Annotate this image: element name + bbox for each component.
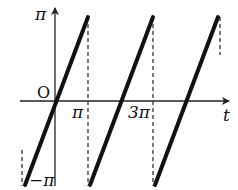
x-tick-label-pi: π xyxy=(71,102,84,122)
x-axis-label: t xyxy=(223,105,230,125)
origin-label: O xyxy=(37,83,50,102)
x-tick-label-3pi: 3π xyxy=(128,102,151,122)
y-bottom-label: −π xyxy=(29,170,55,190)
y-top-label: π xyxy=(34,4,47,24)
sawtooth-chart: π O π 3π t −π xyxy=(0,0,238,190)
